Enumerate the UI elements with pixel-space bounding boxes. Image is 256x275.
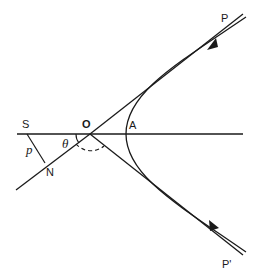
label-S: S bbox=[22, 118, 29, 130]
label-P-prime: P' bbox=[222, 258, 231, 270]
arrow-outgoing-icon bbox=[209, 220, 219, 231]
label-A: A bbox=[129, 119, 137, 131]
hyperbola-diagram: P P' O A S N p θ bbox=[0, 0, 256, 275]
asymptote-lower bbox=[90, 134, 243, 255]
label-theta: θ bbox=[62, 136, 69, 151]
asymptote-upper bbox=[90, 14, 243, 134]
label-O: O bbox=[82, 118, 91, 130]
label-P: P bbox=[221, 12, 228, 24]
theta-arc bbox=[76, 134, 79, 143]
dashed-angle-arc bbox=[76, 144, 104, 151]
label-N: N bbox=[46, 166, 54, 178]
label-p: p bbox=[25, 142, 33, 157]
